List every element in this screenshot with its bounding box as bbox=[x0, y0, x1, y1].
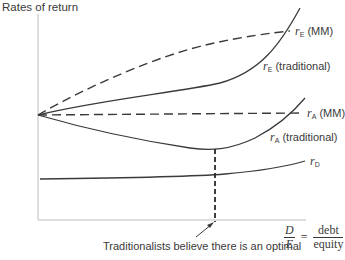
debt-equity-fraction: debt equity bbox=[313, 224, 343, 251]
curve-re-mm bbox=[38, 31, 290, 115]
annotation-text: Traditionalists believe there is an opti… bbox=[103, 240, 301, 252]
label-re-mm: rE (MM) bbox=[295, 24, 333, 39]
curve-re-traditional bbox=[38, 8, 300, 115]
label-re-traditional: rE (traditional) bbox=[263, 59, 330, 74]
label-rd: rD bbox=[310, 154, 320, 169]
curve-rd bbox=[40, 161, 305, 179]
arrow-icon bbox=[196, 222, 214, 237]
label-ra-traditional: rA (traditional) bbox=[270, 130, 337, 145]
y-axis-label: Rates of return bbox=[2, 1, 78, 13]
label-ra-mm: rA (MM) bbox=[307, 106, 345, 121]
curve-ra-mm bbox=[38, 113, 300, 115]
curve-ra-traditional bbox=[38, 98, 305, 149]
